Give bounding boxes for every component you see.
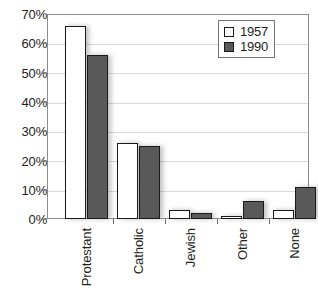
legend-swatch-icon bbox=[224, 42, 234, 52]
x-tick-mark bbox=[217, 219, 218, 224]
legend-item-1957: 1957 bbox=[224, 24, 268, 39]
y-tick-label: 60% bbox=[3, 36, 47, 51]
bar-group-protestant bbox=[65, 14, 108, 219]
x-tick-label-jewish: Jewish bbox=[183, 228, 198, 267]
bar-1990-other bbox=[243, 201, 264, 219]
bar-1957-protestant bbox=[65, 26, 86, 219]
legend-swatch-icon bbox=[224, 27, 234, 37]
bar-group-jewish bbox=[169, 14, 212, 219]
y-axis: 70% 60% 50% 40% 30% 20% 10% 0% bbox=[0, 0, 47, 295]
y-tick-label: 50% bbox=[3, 66, 47, 81]
bar-group-none bbox=[273, 14, 316, 219]
x-tick-mark bbox=[113, 219, 114, 224]
y-tick-label: 0% bbox=[3, 212, 47, 227]
bar-1990-none bbox=[295, 187, 316, 219]
legend: 1957 1990 bbox=[218, 20, 275, 58]
x-tick-mark bbox=[165, 219, 166, 224]
bar-1990-jewish bbox=[191, 213, 212, 219]
bar-group-catholic bbox=[117, 14, 160, 219]
bar-1957-jewish bbox=[169, 210, 190, 219]
bar-1957-none bbox=[273, 210, 294, 219]
y-tick-label: 40% bbox=[3, 95, 47, 110]
legend-label: 1990 bbox=[240, 39, 268, 54]
x-tick-label-none: None bbox=[287, 228, 302, 259]
bar-1957-catholic bbox=[117, 143, 138, 219]
legend-label: 1957 bbox=[240, 24, 268, 39]
bar-1990-protestant bbox=[87, 55, 108, 219]
bar-chart: 70% 60% 50% 40% 30% 20% 10% 0% bbox=[0, 0, 318, 295]
y-tick-label: 70% bbox=[3, 7, 47, 22]
x-tick-label-protestant: Protestant bbox=[79, 228, 94, 286]
legend-item-1990: 1990 bbox=[224, 39, 268, 54]
x-tick-label-other: Other bbox=[235, 228, 250, 260]
bar-1990-catholic bbox=[139, 146, 160, 219]
x-tick-label-catholic: Catholic bbox=[131, 228, 146, 274]
bar-1957-other bbox=[221, 216, 242, 219]
y-tick-label: 10% bbox=[3, 183, 47, 198]
y-tick-label: 20% bbox=[3, 154, 47, 169]
y-tick-label: 30% bbox=[3, 124, 47, 139]
x-tick-mark bbox=[269, 219, 270, 224]
